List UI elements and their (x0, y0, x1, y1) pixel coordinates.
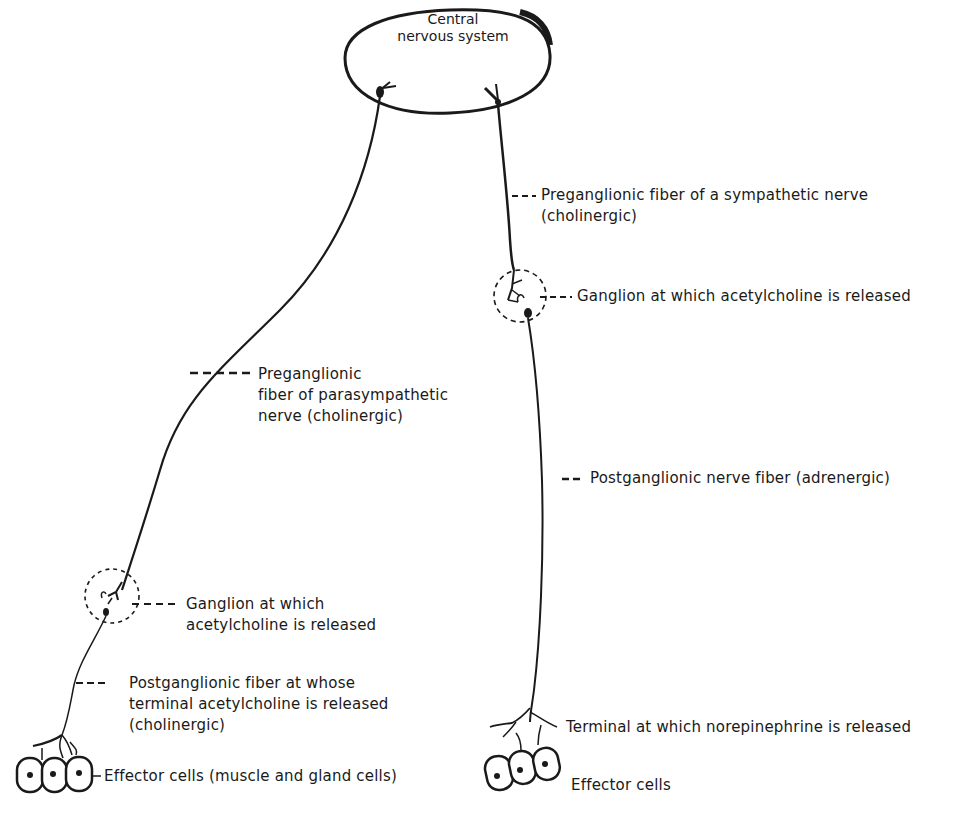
label-parasympathetic-postganglionic-line3: (cholinergic) (129, 715, 389, 736)
label-sympathetic-preganglionic: Preganglionic fiber of a sympathetic ner… (541, 185, 868, 227)
label-parasympathetic-postganglionic: Postganglionic fiber at whose terminal a… (129, 673, 389, 736)
sympathetic-ganglion (494, 270, 546, 322)
parasympathetic-postganglionic-fiber (62, 616, 106, 735)
label-parasympathetic-postganglionic-line2: terminal acetylcholine is released (129, 694, 389, 715)
label-parasympathetic-effector: Effector cells (muscle and gland cells) (104, 766, 397, 787)
label-parasympathetic-preganglionic-line1: Preganglionic (258, 364, 448, 385)
sympathetic-effector-cells (483, 746, 562, 793)
sympathetic-postganglionic-fiber (528, 318, 543, 722)
parasympathetic-ganglion (85, 569, 139, 623)
label-parasympathetic-ganglion-line1: Ganglion at which (186, 594, 376, 615)
label-sympathetic-terminal-text: Terminal at which norepinephrine is rele… (566, 717, 911, 738)
label-parasympathetic-ganglion-line2: acetylcholine is released (186, 615, 376, 636)
sympathetic-terminal (490, 708, 557, 750)
sympathetic-cns-neuron (485, 84, 501, 105)
label-sympathetic-postganglionic-text: Postganglionic nerve fiber (adrenergic) (590, 468, 890, 489)
parasympathetic-preganglionic-fiber (122, 96, 380, 590)
label-sympathetic-ganglion-text: Ganglion at which acetylcholine is relea… (577, 286, 911, 307)
label-parasympathetic-ganglion: Ganglion at which acetylcholine is relea… (186, 594, 376, 636)
label-parasympathetic-postganglionic-line1: Postganglionic fiber at whose (129, 673, 389, 694)
label-parasympathetic-preganglionic-line3: nerve (cholinergic) (258, 406, 448, 427)
label-parasympathetic-preganglionic: Preganglionic fiber of parasympathetic n… (258, 364, 448, 427)
label-sympathetic-ganglion: Ganglion at which acetylcholine is relea… (577, 286, 911, 307)
parasympathetic-terminal (33, 735, 77, 760)
label-parasympathetic-preganglionic-line2: fiber of parasympathetic (258, 385, 448, 406)
label-sympathetic-effector-text: Effector cells (571, 775, 671, 796)
cns-label: Central nervous system (373, 11, 533, 45)
label-sympathetic-terminal: Terminal at which norepinephrine is rele… (566, 717, 911, 738)
label-sympathetic-preganglionic-line1: Preganglionic fiber of a sympathetic ner… (541, 185, 868, 206)
parasympathetic-effector-cells (17, 757, 101, 792)
sympathetic-preganglionic-fiber (498, 104, 514, 270)
label-sympathetic-postganglionic: Postganglionic nerve fiber (adrenergic) (590, 468, 890, 489)
cns-label-line2: nervous system (373, 28, 533, 45)
label-parasympathetic-effector-text: Effector cells (muscle and gland cells) (104, 766, 397, 787)
label-sympathetic-preganglionic-line2: (cholinergic) (541, 206, 868, 227)
parasympathetic-cns-neuron (376, 82, 396, 98)
label-sympathetic-effector: Effector cells (571, 775, 671, 796)
cns-label-line1: Central (373, 11, 533, 28)
